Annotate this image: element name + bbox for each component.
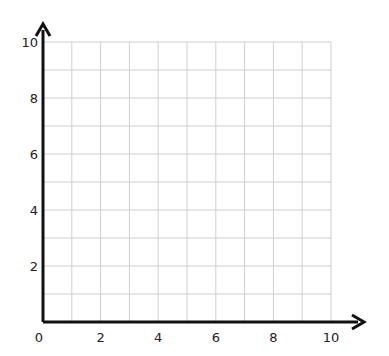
y-tick-label: 8 [30,91,38,106]
x-tick-labels: 0246810 [35,330,339,345]
coordinate-grid-chart: 0246810 246810 [0,0,389,356]
x-tick-label: 8 [269,330,277,345]
x-tick-label: 6 [212,330,220,345]
x-tick-label: 2 [96,330,104,345]
x-tick-label: 4 [154,330,162,345]
x-tick-label: 0 [35,330,43,345]
y-tick-label: 4 [30,203,38,218]
y-tick-labels: 246810 [21,35,38,274]
y-tick-label: 10 [21,35,38,50]
grid-lines [43,42,331,322]
x-tick-label: 10 [323,330,340,345]
y-tick-label: 2 [30,259,38,274]
y-tick-label: 6 [30,147,38,162]
